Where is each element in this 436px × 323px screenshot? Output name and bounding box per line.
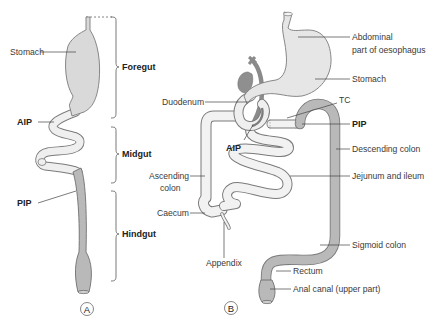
anal-canal-end [262,300,272,303]
label-pip-a: PIP [17,198,32,208]
label-stomach-a: Stomach [10,47,44,57]
stomach-b-shape [244,12,331,104]
panel-a-letter: A [84,304,91,315]
rectum-shape [259,280,275,302]
label-aip-b: AIP [226,143,241,153]
label-descending-colon: Descending colon [352,144,421,154]
label-tc: TC [339,95,350,105]
pip-leader-a [38,191,76,203]
label-abdominal-line1: Abdominal [352,32,393,42]
label-hindgut: Hindgut [122,229,156,239]
gut-development-figure: Stomach AIP PIP Foregut Midgut Hindgut A [0,0,436,323]
appendix [222,214,229,228]
label-aip-a: AIP [17,117,32,127]
panel-a: Stomach AIP PIP Foregut Midgut Hindgut A [10,17,156,316]
label-stomach-b: Stomach [352,74,386,84]
caecal-bud [38,159,46,166]
label-caecum: Caecum [157,208,189,218]
label-sigmoid-colon: Sigmoid colon [352,240,406,250]
stomach-shape [66,17,100,116]
label-abdominal-line2: part of oesophagus [352,45,426,55]
label-ascending-line1: Ascending [149,171,189,181]
hindgut-shape [73,168,91,292]
label-pip-b: PIP [352,119,367,129]
diagram-svg: Stomach AIP PIP Foregut Midgut Hindgut A [0,0,436,323]
midgut-brace [111,127,119,183]
oesophagus-opening [284,12,293,16]
foregut-brace [111,17,119,118]
panel-b: Abdominal part of oesophagus Stomach TC … [149,12,426,315]
label-ascending-line2: colon [160,183,181,193]
label-appendix: Appendix [206,258,243,268]
panel-b-letter: B [228,303,234,314]
label-foregut: Foregut [122,62,156,72]
label-rectum: Rectum [293,266,323,276]
anal-end [78,290,89,293]
label-midgut: Midgut [122,149,152,159]
label-jejunum-ileum: Jejunum and ileum [352,171,424,181]
label-duodenum: Duodenum [162,97,204,107]
label-anal-canal: Anal canal (upper part) [293,284,381,294]
hindgut-brace [111,191,119,281]
